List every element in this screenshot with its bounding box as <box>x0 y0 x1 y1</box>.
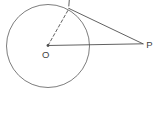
external-point-label: P <box>146 39 152 50</box>
center-to-external-point-line <box>48 44 143 46</box>
dashed-radius-line <box>48 9 69 46</box>
tangent-line <box>69 9 143 44</box>
diagram-canvas: O P <box>0 0 160 115</box>
tangent-point-tick <box>69 0 70 6</box>
center-label: O <box>42 49 49 60</box>
center-point-dot <box>47 44 50 47</box>
geometry-figure: O P <box>0 0 160 115</box>
